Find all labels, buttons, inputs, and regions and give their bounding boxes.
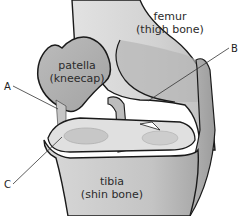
callout-c: C: [4, 137, 62, 190]
meniscus: [48, 118, 195, 152]
patella-name: patella: [58, 59, 96, 72]
callout-b-label: B: [231, 43, 238, 54]
callout-a-label: A: [4, 81, 11, 92]
femur-name: femur: [154, 10, 187, 23]
knee-diagram: femur (thigh bone) patella (kneecap) tib…: [0, 0, 242, 216]
tibia-common-name: (shin bone): [81, 188, 143, 201]
callout-c-label: C: [4, 179, 11, 190]
tibia-name: tibia: [100, 175, 124, 188]
femur-common-name: (thigh bone): [136, 23, 204, 36]
callout-c-leader: [13, 137, 62, 184]
knee-svg: femur (thigh bone) patella (kneecap) tib…: [0, 0, 242, 216]
patella-common-name: (kneecap): [49, 72, 104, 85]
